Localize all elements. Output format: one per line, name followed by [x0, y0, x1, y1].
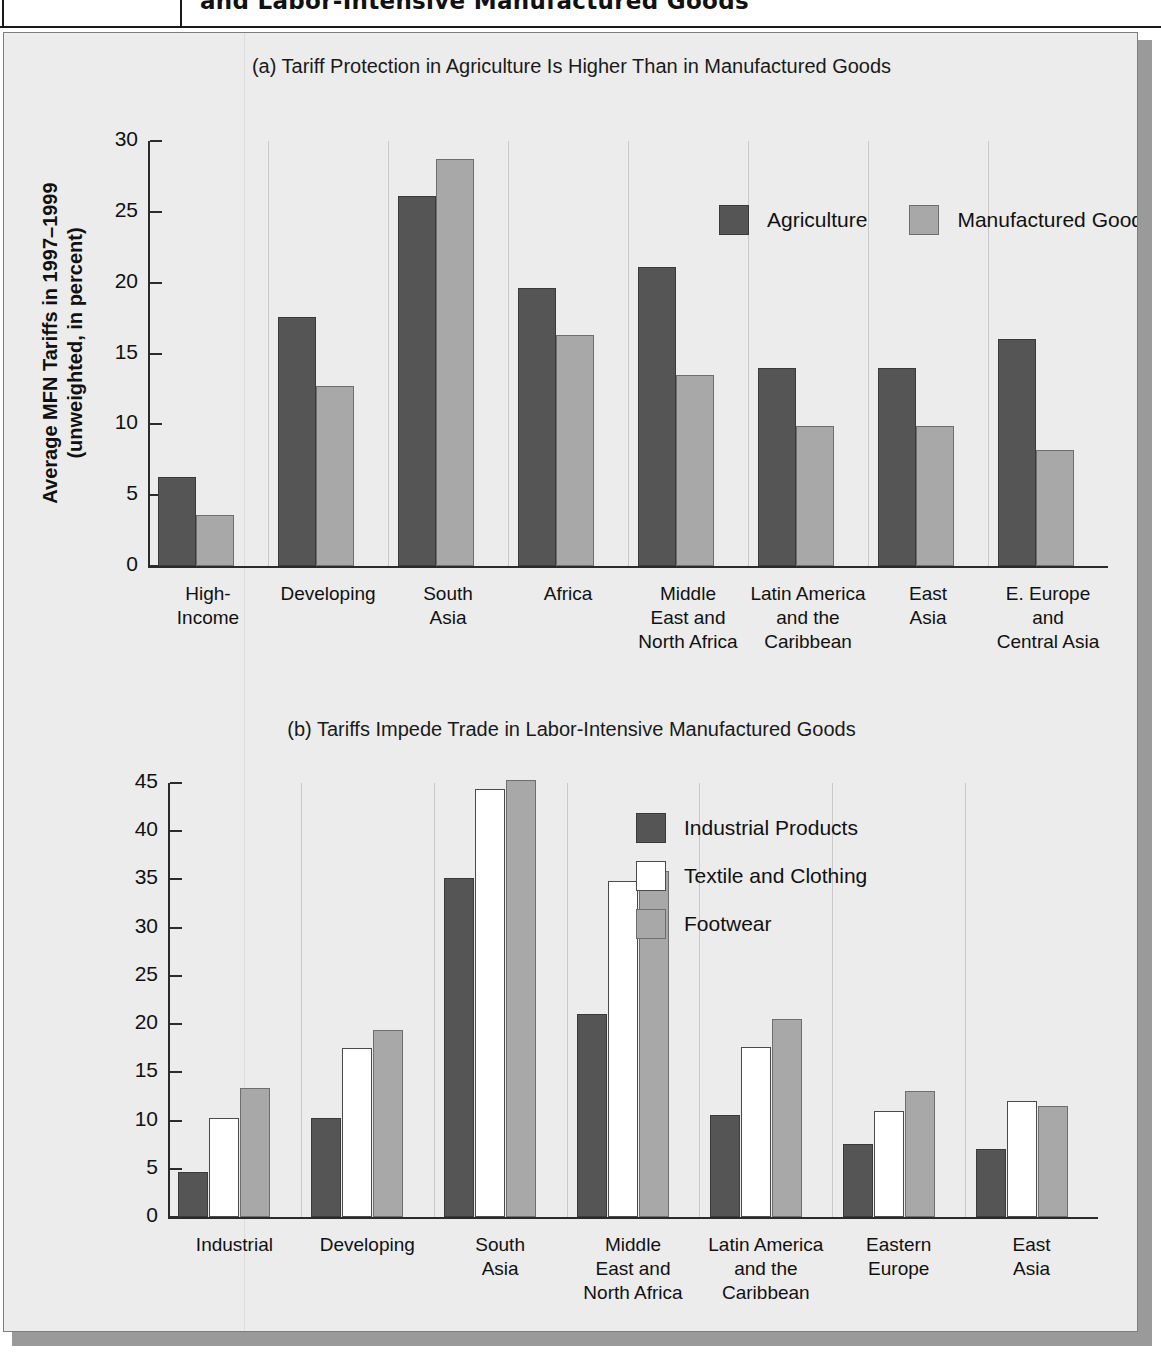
legend-item[interactable]: Agriculture	[719, 205, 867, 235]
legend-item-label: Textile and Clothing	[684, 864, 867, 888]
bar	[638, 267, 676, 566]
y-axis-tick-label: 10	[106, 1107, 158, 1131]
legend-item[interactable]: Footwear	[636, 909, 867, 939]
y-axis-tick	[150, 140, 162, 142]
bar	[506, 780, 536, 1217]
panel-a-legend: AgricultureManufactured Goods	[719, 205, 1138, 235]
bar	[209, 1118, 239, 1217]
legend-item[interactable]: Industrial Products	[636, 813, 867, 843]
y-axis-tick-label: 5	[86, 481, 138, 505]
bar	[976, 1149, 1006, 1217]
bar	[741, 1047, 771, 1217]
bar	[998, 339, 1036, 566]
legend-item[interactable]: Textile and Clothing	[636, 861, 867, 891]
x-axis-category-label: East Asia	[927, 1233, 1137, 1281]
group-separator	[301, 783, 302, 1217]
legend-item-label: Manufactured Goods	[957, 208, 1138, 232]
y-axis-tick	[150, 423, 162, 425]
bar	[196, 515, 234, 566]
bar	[158, 477, 196, 566]
group-separator	[268, 141, 269, 566]
y-axis-tick	[170, 1071, 182, 1073]
y-axis-tick-label: 5	[106, 1155, 158, 1179]
y-axis-tick-label: 25	[106, 962, 158, 986]
bar	[676, 375, 714, 566]
legend-item-label: Industrial Products	[684, 816, 858, 840]
y-axis-tick-label: 0	[106, 1203, 158, 1227]
header-partial-title: and Labor-Intensive Manufactured Goods	[200, 0, 749, 14]
bar	[772, 1019, 802, 1217]
panel-a-y-axis-title-line2: (unweighted, in percent)	[63, 133, 88, 553]
x-axis-category-label: E. Europe and Central Asia	[943, 582, 1138, 653]
y-axis-tick	[150, 353, 162, 355]
bar	[178, 1172, 208, 1217]
legend-swatch-icon	[636, 861, 666, 891]
page-header-band: and Labor-Intensive Manufactured Goods	[0, 0, 1161, 28]
bar	[1007, 1101, 1037, 1217]
panel-b: (b) Tariffs Impede Trade in Labor-Intens…	[4, 673, 1138, 1332]
group-separator	[508, 141, 509, 566]
y-axis-tick-label: 20	[106, 1010, 158, 1034]
y-axis-tick	[170, 830, 182, 832]
y-axis-tick	[170, 878, 182, 880]
y-axis-tick	[170, 782, 182, 784]
panel-b-legend: Industrial ProductsTextile and ClothingF…	[636, 813, 867, 957]
legend-item-label: Footwear	[684, 912, 772, 936]
x-axis-line	[168, 1217, 1098, 1219]
y-axis-tick-label: 0	[86, 552, 138, 576]
y-axis-tick	[170, 1168, 182, 1170]
bar	[316, 386, 354, 566]
bar	[905, 1091, 935, 1217]
panel-a-title: (a) Tariff Protection in Agriculture Is …	[4, 55, 1138, 78]
bar	[342, 1048, 372, 1217]
x-axis-line	[148, 566, 1108, 568]
y-axis-tick-label: 30	[106, 914, 158, 938]
panel-a: (a) Tariff Protection in Agriculture Is …	[4, 33, 1138, 673]
bar	[240, 1088, 270, 1217]
bar	[278, 317, 316, 566]
bar	[843, 1144, 873, 1217]
y-axis-tick-label: 40	[106, 817, 158, 841]
legend-swatch-icon	[636, 813, 666, 843]
bar	[758, 368, 796, 566]
bar	[1036, 450, 1074, 566]
y-axis-tick	[150, 211, 162, 213]
bar	[398, 196, 436, 566]
group-separator	[434, 783, 435, 1217]
panel-b-plot-area: 051015202530354045	[168, 783, 1098, 1217]
bar	[608, 881, 638, 1217]
bar	[436, 159, 474, 566]
group-separator	[965, 783, 966, 1217]
legend-item[interactable]: Manufactured Goods	[909, 205, 1138, 235]
y-axis-tick-label: 30	[86, 127, 138, 151]
y-axis-tick	[150, 282, 162, 284]
panel-a-y-axis-title-line1: Average MFN Tariffs in 1997–1999	[39, 182, 61, 503]
y-axis-line	[168, 783, 170, 1217]
bar	[796, 426, 834, 566]
legend-swatch-icon	[719, 205, 749, 235]
group-separator	[388, 141, 389, 566]
legend-swatch-icon	[636, 909, 666, 939]
y-axis-tick-label: 15	[86, 340, 138, 364]
y-axis-tick	[170, 975, 182, 977]
bar	[311, 1118, 341, 1217]
header-left-cell	[2, 0, 182, 28]
bar	[878, 368, 916, 566]
bar	[556, 335, 594, 566]
group-separator	[567, 783, 568, 1217]
group-separator	[628, 141, 629, 566]
y-axis-tick-label: 25	[86, 198, 138, 222]
bar	[444, 878, 474, 1217]
panel-a-y-axis-title: Average MFN Tariffs in 1997–1999 (unweig…	[38, 133, 88, 553]
bar	[518, 288, 556, 566]
bar	[710, 1115, 740, 1217]
y-axis-tick-label: 15	[106, 1058, 158, 1082]
y-axis-tick-label: 20	[86, 269, 138, 293]
y-axis-tick-label: 35	[106, 865, 158, 889]
bar	[577, 1014, 607, 1217]
panel-b-title: (b) Tariffs Impede Trade in Labor-Intens…	[4, 718, 1138, 741]
y-axis-tick	[170, 1023, 182, 1025]
y-axis-tick	[170, 927, 182, 929]
bar	[874, 1111, 904, 1217]
y-axis-tick	[170, 1120, 182, 1122]
